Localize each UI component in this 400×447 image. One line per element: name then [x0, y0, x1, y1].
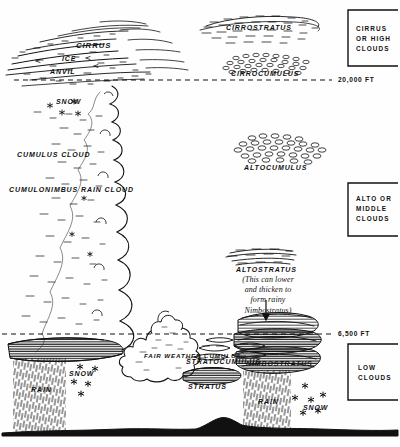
altitude-label-20000: 20,000 FT [338, 76, 374, 83]
altitude-label-6500: 6,500 FT [338, 330, 370, 337]
altostratus-note: (This can lower and thicken to form rain… [216, 275, 320, 316]
snow-symbols-upper [48, 99, 81, 116]
cirrus-anvil-cloud [6, 21, 188, 86]
cirrocumulus-cloud [223, 53, 309, 74]
snow-symbols-left [71, 364, 97, 396]
bracket-label-low-clouds: LOW CLOUDS [358, 363, 392, 383]
cumulonimbus-base [8, 338, 123, 362]
bracket-label-cirrus-high: CIRRUS OR HIGH CLOUDS [356, 24, 391, 54]
snow-symbols-right [292, 383, 325, 415]
cumulonimbus-tower [22, 86, 134, 352]
stratus-cloud [183, 368, 241, 385]
rain-shaft-left [13, 358, 66, 432]
rain-shaft-right [243, 370, 291, 432]
bracket-label-alto-middle: ALTO OR MIDDLE CLOUDS [356, 194, 392, 224]
nimbostratus-cloud [234, 313, 321, 374]
diagram-artwork [0, 0, 400, 447]
altocumulus-cloud [234, 134, 326, 164]
snow-symbols-tower [70, 196, 92, 256]
cirrostratus-cloud [200, 16, 320, 43]
cloud-diagram-figure: CIRRUS ICE ANVIL CIRROSTRATUS CIRROCUMUL… [0, 0, 400, 447]
altostratus-cloud [226, 249, 296, 265]
